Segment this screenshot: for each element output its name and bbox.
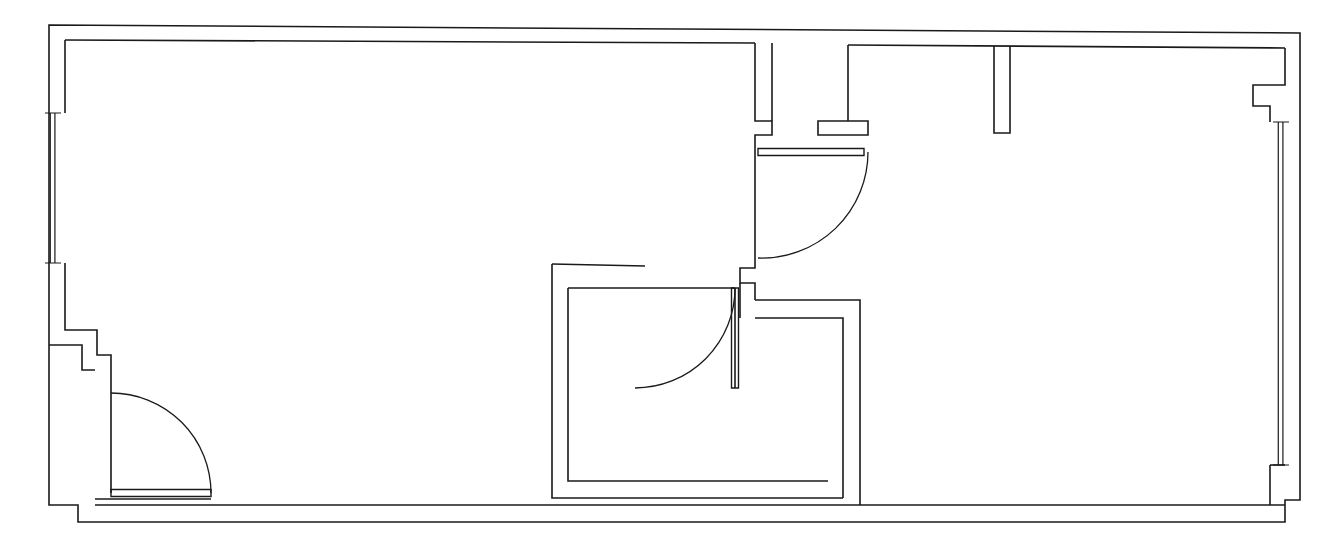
- door-center-room-swing-arc: [635, 288, 735, 388]
- window-left-frame: [45, 113, 61, 263]
- center-room-outer-top: [552, 264, 645, 266]
- floor-plan-canvas: [0, 0, 1343, 560]
- windows: [45, 113, 1289, 465]
- center-room-walls: [552, 264, 843, 498]
- door-upper-middle[interactable]: [758, 149, 868, 259]
- window-right-frame: [1273, 122, 1289, 465]
- exterior-wall-outer-left-step: [49, 345, 95, 370]
- partition-upper-middle-right: [818, 45, 868, 135]
- exterior-wall-outer-line: [49, 25, 1300, 522]
- floor-plan-drawing: [0, 0, 1343, 560]
- partition-upper-middle-left: [755, 43, 772, 152]
- exterior-wall-inner-top-left: [65, 40, 755, 43]
- door-upper-middle-leaf: [758, 149, 864, 156]
- door-entry-swing-arc: [111, 393, 211, 493]
- exterior-wall-inner-right-step: [1253, 48, 1285, 122]
- door-entry-leaf: [111, 490, 211, 497]
- exterior-wall-inner-top-right: [848, 45, 1285, 48]
- partition-right-room-stub: [994, 46, 1010, 133]
- door-entry[interactable]: [111, 393, 211, 497]
- window-right: [1273, 122, 1289, 465]
- exterior-walls: [49, 25, 1300, 522]
- partition-mid-to-right-outer: [755, 300, 860, 505]
- center-room-inner: [568, 288, 828, 481]
- window-left: [45, 113, 61, 263]
- partition-vertical-mid: [740, 152, 755, 300]
- exterior-wall-inner-left-lower: [65, 263, 111, 493]
- center-room-outer: [552, 264, 843, 498]
- partition-mid-to-right-inner: [755, 318, 843, 498]
- door-upper-middle-swing-arc: [758, 152, 868, 258]
- door-center-room[interactable]: [635, 288, 739, 388]
- interior-partitions: [740, 43, 1010, 505]
